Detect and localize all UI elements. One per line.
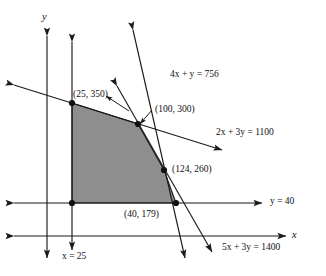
feasible-region-shading [72,103,176,203]
leader-25-350 [106,96,129,111]
label-vertex-124-260: (124, 260) [172,165,212,175]
vertex-dot-25-350 [69,100,75,106]
x-axis-label: x [292,230,297,241]
feasible-region-diagram: y x 4x + y = 756 2x + 3y = 1100 5x + 3y … [0,0,326,276]
diagram-canvas [0,0,326,276]
y-axis-label: y [42,12,47,23]
label-4x-y-756: 4x + y = 756 [170,70,219,80]
label-5x-3y-1400: 5x + 3y = 1400 [222,243,280,253]
label-y-equals-40: y = 40 [270,197,294,207]
label-vertex-40-179: (40, 179) [124,210,159,220]
label-vertex-100-300: (100, 300) [155,105,195,115]
label-2x-3y-1100: 2x + 3y = 1100 [216,128,274,138]
label-vertex-25-350: (25, 350) [73,90,108,100]
label-x-equals-25: x = 25 [62,252,86,262]
leader-100-300 [140,110,152,124]
vertex-dot-origin-corner [69,200,75,206]
vertex-dot-40-179 [173,200,179,206]
vertex-dot-100-300 [135,121,141,127]
vertex-dot-124-260 [161,167,167,173]
